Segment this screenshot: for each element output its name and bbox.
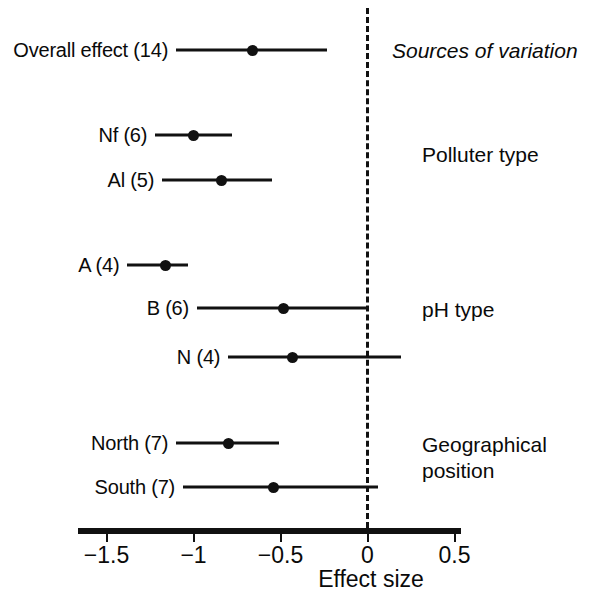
confidence-interval-line [183,486,378,489]
x-axis-tick-label: 0 [361,542,374,568]
group-caption: Geographical position [422,432,547,484]
x-axis-tick-label: −1.5 [84,542,129,568]
effect-estimate-point [268,482,279,493]
x-axis-tick [193,534,195,542]
forest-row-label: Nf (6) [98,124,147,146]
effect-estimate-point [188,130,199,141]
forest-row-label: Overall effect (14) [13,39,168,61]
forest-row-label: North (7) [91,432,168,454]
x-axis-tick-label: 0.5 [439,542,471,568]
forest-row-label: B (6) [147,297,189,319]
x-axis-tick [280,534,282,542]
effect-estimate-point [247,45,258,56]
group-caption: pH type [422,297,494,323]
effect-estimate-point [160,260,171,271]
forest-row: N (4) [0,346,597,368]
x-axis-tick [454,534,456,542]
forest-row: B (6) [0,297,597,319]
x-axis-title: Effect size [318,566,424,592]
effect-estimate-point [216,175,227,186]
forest-row: A (4) [0,254,597,276]
x-axis-tick [367,534,369,542]
group-caption: Polluter type [422,142,539,168]
forest-row-label: Al (5) [108,169,155,191]
forest-row-label: A (4) [78,254,119,276]
confidence-interval-line [127,264,188,267]
effect-estimate-point [223,438,234,449]
x-axis-line [78,528,462,534]
forest-row-label: South (7) [95,476,175,498]
forest-row: Al (5) [0,169,597,191]
x-axis-tick-label: −1 [180,542,206,568]
forest-row-label: N (4) [177,346,220,368]
forest-plot-figure: Overall effect (14)Nf (6)Al (5)A (4)B (6… [0,0,597,597]
group-caption: Sources of variation [392,38,578,64]
x-axis-tick [106,534,108,542]
plot-area: Overall effect (14)Nf (6)Al (5)A (4)B (6… [0,0,597,597]
confidence-interval-line [228,356,400,359]
effect-estimate-point [278,303,289,314]
x-axis-tick-label: −0.5 [258,542,303,568]
effect-estimate-point [287,352,298,363]
